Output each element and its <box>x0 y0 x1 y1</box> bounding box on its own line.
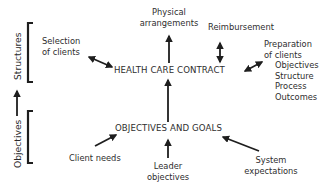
client-needs-arrow <box>95 135 116 146</box>
leader-objectives-line-2: objectives <box>138 172 198 183</box>
system-expectations-line-1: System <box>238 155 304 166</box>
preparation-items: Objectives Structure Process Outcomes <box>264 60 319 102</box>
preparation-title-line-1: Preparation <box>264 39 319 50</box>
selection-of-clients-node: Selection of clients <box>42 36 80 57</box>
system-expectations-node: System expectations <box>238 155 304 176</box>
structures-label: Structures <box>12 32 23 80</box>
reimbursement-node: Reimbursement <box>208 22 274 33</box>
preparation-contract-double-arrow <box>245 62 262 71</box>
selection-contract-double-arrow <box>89 57 112 67</box>
preparation-of-clients-node: Preparation of clients Objectives Struct… <box>264 39 319 102</box>
physical-arrangements-node: Physical arrangements <box>138 7 200 28</box>
selection-of-clients-line-2: of clients <box>42 47 80 58</box>
leader-objectives-node: Leader objectives <box>138 161 198 182</box>
preparation-item-structure: Structure <box>275 71 319 82</box>
physical-arrangements-line-1: Physical <box>138 7 200 18</box>
system-expectations-line-2: expectations <box>238 166 304 177</box>
preparation-title-line-2: of clients <box>264 50 319 61</box>
structures-bracket <box>28 23 33 82</box>
client-needs-node: Client needs <box>69 153 121 164</box>
objectives-and-goals-node: OBJECTIVES AND GOALS <box>115 123 222 134</box>
system-expectations-arrow <box>223 137 259 151</box>
selection-of-clients-line-1: Selection <box>42 36 80 47</box>
preparation-item-process: Process <box>275 81 319 92</box>
preparation-item-outcomes: Outcomes <box>275 92 319 103</box>
objectives-bracket <box>28 111 33 163</box>
physical-arrangements-line-2: arrangements <box>138 18 200 29</box>
preparation-item-objectives: Objectives <box>275 60 319 71</box>
health-care-contract-node: HEALTH CARE CONTRACT <box>114 65 225 76</box>
leader-objectives-line-1: Leader <box>138 161 198 172</box>
objectives-label: Objectives <box>12 120 23 168</box>
